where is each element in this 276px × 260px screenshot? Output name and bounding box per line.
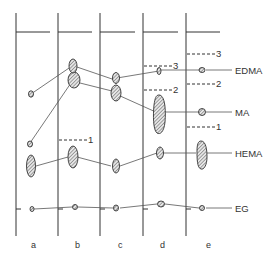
spot-b-edma xyxy=(69,59,77,73)
spot-e-ma xyxy=(199,109,206,116)
spot-c-eg xyxy=(114,205,119,211)
connector-lines xyxy=(30,66,232,209)
spot-a-hema xyxy=(27,155,36,177)
compound-label-edma: EDMA xyxy=(235,65,263,76)
compound-label-eg: EG xyxy=(235,203,249,214)
marker-b-1: 1 xyxy=(88,134,93,145)
marker-d-3: 3 xyxy=(173,60,178,71)
lane-label-d: d xyxy=(160,240,165,250)
spot-d-ma xyxy=(153,95,165,134)
spot-d-eg xyxy=(158,201,165,207)
spot-c-edma xyxy=(113,73,120,84)
lane-label-c: c xyxy=(118,240,123,250)
lane-label-b: b xyxy=(75,240,80,250)
spot-c-ma xyxy=(111,85,121,101)
spot-a-ma xyxy=(28,141,33,147)
spot-d-edma xyxy=(157,68,161,75)
chromatogram-diagram: 3 2 1 3 2 1 xyxy=(0,0,276,260)
spot-b-hema xyxy=(68,146,78,168)
reference-markers xyxy=(59,54,215,140)
marker-e-3: 3 xyxy=(216,48,221,59)
lane-label-a: a xyxy=(31,240,36,250)
spot-d-hema xyxy=(157,147,164,159)
compound-label-ma: MA xyxy=(235,107,250,118)
spot-a-eg xyxy=(30,207,34,212)
marker-e-1: 1 xyxy=(216,121,221,132)
spot-c-hema xyxy=(113,159,120,173)
spots xyxy=(27,59,208,212)
compound-label-hema: HEMA xyxy=(235,148,263,159)
lane-label-e: e xyxy=(206,240,211,250)
marker-e-2: 2 xyxy=(216,78,221,89)
spot-a-edma xyxy=(29,91,34,97)
spot-e-eg xyxy=(200,206,205,211)
spot-e-hema xyxy=(197,141,207,169)
spot-e-edma xyxy=(199,68,205,73)
spot-b-ma xyxy=(68,72,80,88)
marker-d-2: 2 xyxy=(173,84,178,95)
spot-b-eg xyxy=(73,205,78,210)
